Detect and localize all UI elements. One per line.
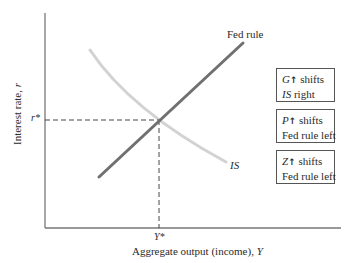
r-star-label: r*: [31, 112, 40, 124]
fed-rule-label: Fed rule: [227, 28, 263, 40]
note-box-g: G↑ shifts IS right: [276, 68, 335, 102]
x-axis-title: Aggregate output (income), Y: [132, 245, 263, 257]
note-box-p: P↑ shifts Fed rule left: [276, 109, 335, 143]
is-label: IS: [230, 159, 239, 171]
up-arrow-icon: ↑: [288, 157, 296, 167]
up-arrow-icon: ↑: [290, 75, 298, 85]
fed-rule-line: [99, 43, 243, 177]
note-box-z: Z↑ shifts Fed rule left: [276, 150, 335, 184]
y-axis-title: Interest rate, r: [11, 59, 23, 169]
is-curve: [90, 50, 226, 162]
y-star-label: Y*: [154, 231, 165, 243]
